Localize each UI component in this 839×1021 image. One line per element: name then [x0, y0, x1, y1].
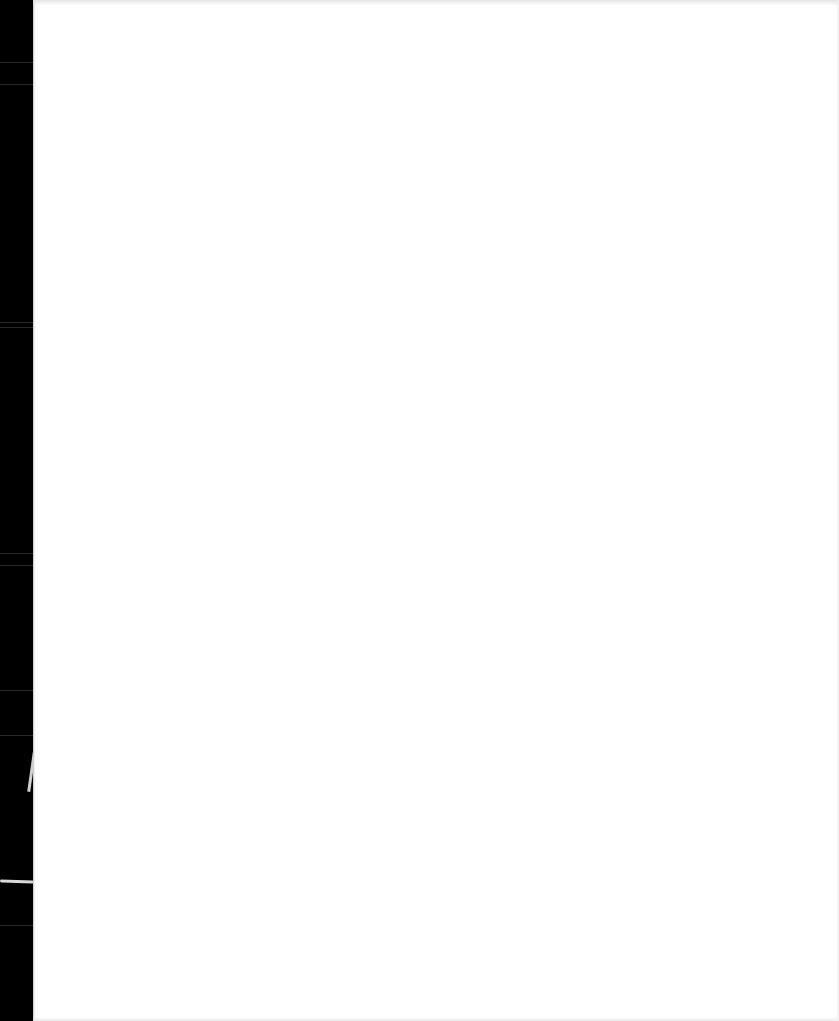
scanner-edge [0, 0, 33, 1021]
edge-artifact [0, 84, 33, 85]
page-bottom-edge [33, 1017, 839, 1021]
edge-artifact [0, 327, 33, 328]
page-top-edge [33, 0, 839, 6]
edge-artifact [0, 879, 34, 883]
edge-artifact [0, 565, 33, 566]
edge-artifact [0, 925, 33, 926]
page-text [93, 40, 779, 981]
edge-artifact [0, 690, 33, 691]
page [33, 0, 839, 1021]
edge-artifact [0, 62, 33, 63]
scanned-document [0, 0, 839, 1021]
edge-artifact [0, 735, 33, 736]
edge-artifact [0, 322, 33, 323]
edge-artifact [0, 553, 33, 554]
